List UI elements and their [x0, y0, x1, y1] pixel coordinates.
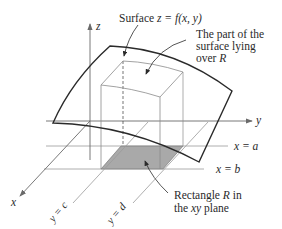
surface-over-rectangle-diagram: z y x Surface z = f(x, y) The part of th… — [0, 0, 282, 229]
rect-label-line-2: the xy plane — [174, 202, 229, 214]
x-axis — [20, 121, 90, 196]
rect-label-line-1: Rectangle R in — [174, 189, 242, 201]
surface-patch-over-r — [101, 61, 183, 97]
surface-label: Surface z = f(x, y) — [119, 12, 202, 24]
x-eq-b-label: x = b — [216, 163, 240, 175]
x-eq-a-label: x = a — [234, 140, 258, 152]
surface-label-pointer — [124, 25, 138, 56]
part-label-line-1: The part of the — [196, 28, 264, 40]
part-label-line-2: surface lying — [196, 40, 256, 52]
z-axis-label: z — [96, 20, 100, 32]
x-axis-label: x — [11, 196, 16, 208]
rectangle-r-shaded — [101, 146, 183, 169]
part-label-line-3: over R — [196, 52, 226, 64]
patch-label-pointer — [146, 40, 186, 74]
y-axis-label: y — [256, 114, 261, 126]
